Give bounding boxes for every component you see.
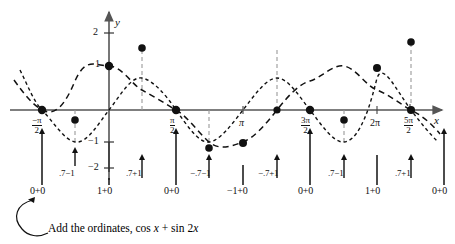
- x-tick-denom: 2: [403, 126, 414, 135]
- x-tick-numer: −π: [31, 116, 43, 125]
- sum-point: [340, 116, 348, 124]
- sum-annotation: 1+0: [365, 186, 380, 196]
- y-tick-label-neg2: −2: [88, 162, 99, 172]
- x-tick-numer: π: [169, 116, 176, 125]
- ordinate-addition-figure: [0, 0, 455, 244]
- caption-curl-arrowhead: [28, 197, 35, 203]
- sum-annotation: 0+0: [30, 186, 45, 196]
- sum-point: [306, 106, 314, 114]
- sum-point: [407, 106, 415, 114]
- y-tick-label-2: 2: [93, 27, 98, 37]
- ordinate-annotation: .7−1: [328, 169, 344, 178]
- caption-term2-var: x: [193, 222, 198, 234]
- x-tick-denom: 2: [300, 126, 311, 135]
- sum-point: [71, 116, 79, 124]
- x-tick-label-neg-pi-over-2: −π2: [31, 116, 43, 136]
- ordinate-annotation: .7−1: [59, 169, 75, 178]
- ordinate-annotation: −.7−1: [190, 169, 210, 178]
- ordinate-guide-lines: [75, 42, 411, 145]
- x-tick-label-5pi-over-2: 5π2: [403, 116, 414, 136]
- x-tick-numer: 5π: [403, 116, 414, 125]
- x-tick-label-pi-over-2: π2: [169, 116, 176, 136]
- x-tick-marks: [42, 104, 410, 114]
- sum-point: [138, 44, 146, 52]
- x-axis-label: x: [434, 115, 439, 126]
- ordinate-annotation: −.7+1: [258, 169, 278, 178]
- sum-annotation: 0+0: [432, 186, 447, 196]
- caption-term2-fn: sin 2: [171, 222, 193, 234]
- sum-annotation: 1+0: [97, 186, 112, 196]
- sum-point: [407, 38, 415, 46]
- ordinate-annotation: .7+1: [395, 169, 411, 178]
- x-tick-numer: 3π: [300, 116, 311, 125]
- x-tick-label-3pi-over-2: 3π2: [300, 116, 311, 136]
- sum-point: [105, 62, 113, 70]
- sum-point: [239, 139, 247, 147]
- sum-arrow-heads: [39, 128, 447, 134]
- sum-point: [373, 64, 381, 72]
- sum-point: [205, 144, 213, 152]
- x-tick-label-2pi: 2π: [370, 118, 380, 128]
- y-axis-label: y: [115, 17, 120, 28]
- ordinate-arrow-heads: [72, 147, 414, 160]
- caption-curl-arrow: [17, 200, 48, 236]
- curve-cos-x: [14, 64, 440, 147]
- caption-plus: +: [159, 222, 171, 234]
- sum-point: [38, 106, 46, 114]
- sum-annotation: 0+0: [164, 186, 179, 196]
- sum-point: [172, 106, 180, 114]
- y-tick-label-1: 1: [95, 59, 100, 69]
- sum-annotation: 0+0: [298, 186, 313, 196]
- caption-lead: Add the ordinates,: [48, 222, 136, 234]
- sum-annotation: −1+0: [227, 186, 247, 196]
- caption-term1-fn: cos: [136, 222, 154, 234]
- y-tick-label-neg1: −1: [88, 136, 99, 146]
- curve-sin-2x: [20, 70, 438, 142]
- x-tick-denom: 2: [31, 126, 43, 135]
- sum-point: [273, 106, 280, 113]
- x-tick-denom: 2: [169, 126, 176, 135]
- ordinate-annotation: .7+1: [126, 169, 142, 178]
- figure-caption: Add the ordinates, cos x + sin 2x: [48, 222, 198, 234]
- x-tick-label-pi: π: [239, 118, 244, 128]
